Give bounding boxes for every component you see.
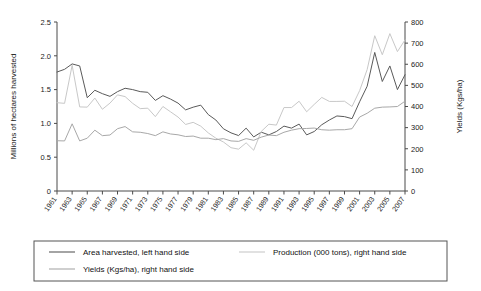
x-tick-label: 1973 xyxy=(133,195,150,213)
y2-tick-label: 700 xyxy=(411,39,424,48)
y-tick-label: 2.5 xyxy=(41,18,51,27)
y-tick-label: 2.0 xyxy=(41,52,51,61)
y2-tick-label: 600 xyxy=(411,60,424,69)
x-tick-label: 1987 xyxy=(239,195,256,213)
x-tick-label: 1991 xyxy=(269,195,286,213)
y2-tick-label: 500 xyxy=(411,81,424,90)
y2-tick-label: 100 xyxy=(411,166,424,175)
chart-legend: Area harvested, left hand sideProduction… xyxy=(34,241,447,281)
x-tick-label: 1967 xyxy=(87,195,104,213)
left-axis-title: Millions of hectares harvested xyxy=(9,54,18,160)
x-tick-label: 1975 xyxy=(148,195,165,213)
series-line xyxy=(57,52,405,137)
x-tick-label: 1981 xyxy=(193,195,210,213)
x-tick-label: 2005 xyxy=(375,195,392,213)
y-tick-label: 1.5 xyxy=(41,85,51,94)
x-tick-label: 1965 xyxy=(72,195,89,213)
right-axis: 0100200300400500600700800Yields (Kgs/ha) xyxy=(405,18,464,196)
left-axis: 00.51.01.52.02.5Millions of hectares har… xyxy=(9,18,57,196)
x-tick-label: 1997 xyxy=(314,195,331,213)
y2-tick-label: 400 xyxy=(411,102,424,111)
x-tick-label: 1977 xyxy=(163,195,180,213)
legend-label: Yields (Kgs/ha), right hand side xyxy=(83,265,194,274)
line-chart: 00.51.01.52.02.5Millions of hectares har… xyxy=(0,0,481,291)
y-tick-label: 0.5 xyxy=(41,153,51,162)
chart-figure: 00.51.01.52.02.5Millions of hectares har… xyxy=(0,0,481,291)
x-tick-label: 1969 xyxy=(103,195,120,213)
x-tick-label: 2001 xyxy=(345,195,362,213)
x-tick-label: 1993 xyxy=(284,195,301,213)
y2-tick-label: 800 xyxy=(411,18,424,27)
y2-tick-label: 0 xyxy=(411,187,415,196)
x-tick-label: 1971 xyxy=(118,195,135,213)
x-tick-label: 2007 xyxy=(390,195,407,213)
x-tick-label: 1995 xyxy=(299,195,316,213)
y-tick-label: 1.0 xyxy=(41,119,51,128)
x-tick-label: 1963 xyxy=(57,195,74,213)
right-axis-title: Yields (Kgs/ha) xyxy=(455,79,464,133)
x-tick-label: 2003 xyxy=(360,195,377,213)
x-tick-label: 1979 xyxy=(178,195,195,213)
x-tick-label: 1989 xyxy=(254,195,271,213)
x-tick-label: 1985 xyxy=(224,195,241,213)
series-line xyxy=(57,101,405,141)
y2-tick-label: 200 xyxy=(411,145,424,154)
x-tick-label: 1999 xyxy=(330,195,347,213)
x-axis: 1961196319651967196919711973197519771979… xyxy=(42,191,407,213)
y2-tick-label: 300 xyxy=(411,123,424,132)
x-tick-label: 1961 xyxy=(42,195,59,213)
series-group xyxy=(57,34,405,151)
legend-label: Area harvested, left hand side xyxy=(83,248,190,257)
legend-box xyxy=(34,241,447,281)
x-tick-label: 1983 xyxy=(209,195,226,213)
y-tick-label: 0 xyxy=(47,187,51,196)
legend-label: Production (000 tons), right hand side xyxy=(273,248,407,257)
